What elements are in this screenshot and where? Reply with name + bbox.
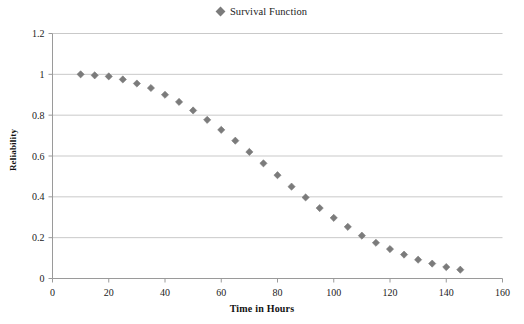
y-tick-label: 0 bbox=[40, 273, 45, 284]
data-points bbox=[77, 71, 464, 274]
data-point-marker bbox=[161, 91, 168, 98]
x-tick-label: 120 bbox=[383, 287, 398, 298]
data-point-marker bbox=[415, 256, 422, 263]
x-tick-label: 80 bbox=[273, 287, 283, 298]
x-tick-label: 60 bbox=[216, 287, 226, 298]
x-tick-label: 20 bbox=[104, 287, 114, 298]
data-point-marker bbox=[190, 107, 197, 114]
y-axis-tick-labels: 00.20.40.60.811.2 bbox=[32, 28, 45, 284]
x-axis-title: Time in Hours bbox=[0, 303, 524, 314]
data-point-marker bbox=[175, 98, 182, 105]
data-point-marker bbox=[147, 84, 154, 91]
data-point-marker bbox=[302, 194, 309, 201]
x-tick-label: 40 bbox=[160, 287, 170, 298]
data-point-marker bbox=[316, 204, 323, 211]
data-point-marker bbox=[457, 266, 464, 273]
data-point-marker bbox=[288, 183, 295, 190]
data-point-marker bbox=[443, 263, 450, 270]
plot-area: 020406080100120140160 00.20.40.60.811.2 bbox=[0, 0, 524, 324]
data-point-marker bbox=[330, 214, 337, 221]
x-tick-label: 0 bbox=[50, 287, 55, 298]
y-axis-ticks bbox=[49, 34, 53, 279]
data-point-marker bbox=[218, 126, 225, 133]
y-tick-label: 0.4 bbox=[32, 191, 45, 202]
data-point-marker bbox=[204, 116, 211, 123]
data-point-marker bbox=[274, 172, 281, 179]
y-tick-label: 0.6 bbox=[32, 151, 45, 162]
data-point-marker bbox=[400, 251, 407, 258]
data-point-marker bbox=[344, 223, 351, 230]
data-point-marker bbox=[260, 160, 267, 167]
y-tick-label: 1.2 bbox=[32, 28, 45, 39]
data-point-marker bbox=[246, 148, 253, 155]
x-tick-label: 100 bbox=[326, 287, 341, 298]
survival-function-chart: Survival Function 020406080100120140160 … bbox=[0, 0, 524, 324]
y-tick-label: 0.2 bbox=[32, 232, 45, 243]
x-tick-label: 160 bbox=[495, 287, 510, 298]
data-point-marker bbox=[386, 246, 393, 253]
data-point-marker bbox=[133, 80, 140, 87]
data-point-marker bbox=[91, 72, 98, 79]
x-axis-ticks bbox=[53, 279, 503, 283]
y-tick-label: 1 bbox=[40, 69, 45, 80]
data-point-marker bbox=[119, 76, 126, 83]
x-axis-tick-labels: 020406080100120140160 bbox=[50, 287, 510, 298]
x-tick-label: 140 bbox=[439, 287, 454, 298]
data-point-marker bbox=[232, 137, 239, 144]
y-tick-label: 0.8 bbox=[32, 110, 45, 121]
data-point-marker bbox=[372, 239, 379, 246]
y-axis-title: Reliability bbox=[8, 105, 18, 195]
data-point-marker bbox=[429, 260, 436, 267]
data-point-marker bbox=[77, 71, 84, 78]
gridlines bbox=[53, 34, 503, 238]
